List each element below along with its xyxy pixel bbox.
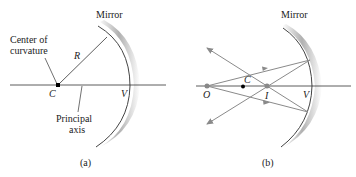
mirror-label: Mirror — [281, 9, 308, 20]
vertex-label: V — [303, 89, 311, 100]
caption-b: (b) — [262, 157, 274, 169]
radius-line — [58, 37, 107, 85]
center-point-label: C — [244, 74, 251, 85]
mirror-label: Mirror — [96, 9, 123, 20]
concave-mirror-diagram: Mirror Center of curvature R C V Princip… — [0, 0, 356, 177]
object-label: O — [203, 89, 210, 100]
incident-ray-lower — [207, 86, 308, 112]
axis-label-line2: axis — [69, 124, 85, 135]
axis-leader-line — [78, 86, 82, 112]
axis-label-line1: Principal — [56, 113, 92, 124]
center-of-curvature-point — [241, 85, 245, 89]
object-point — [205, 84, 210, 89]
image-point — [265, 84, 270, 89]
center-point-label: C — [49, 88, 56, 99]
vertex-label: V — [121, 88, 129, 99]
panel-a: Mirror Center of curvature R C V Princip… — [10, 9, 166, 169]
radius-label: R — [73, 50, 80, 61]
reflected-ray-lower — [207, 48, 308, 112]
center-label-line1: Center of — [10, 34, 48, 45]
image-label: I — [264, 90, 269, 101]
panel-b: Mirror O C I V (b) — [196, 9, 351, 169]
caption-a: (a) — [80, 157, 91, 169]
center-label-line2: curvature — [10, 45, 48, 56]
incident-ray-upper — [207, 60, 310, 86]
reflected-ray-upper — [207, 60, 310, 124]
center-of-curvature-point — [56, 83, 60, 87]
center-leader-line — [45, 58, 57, 84]
